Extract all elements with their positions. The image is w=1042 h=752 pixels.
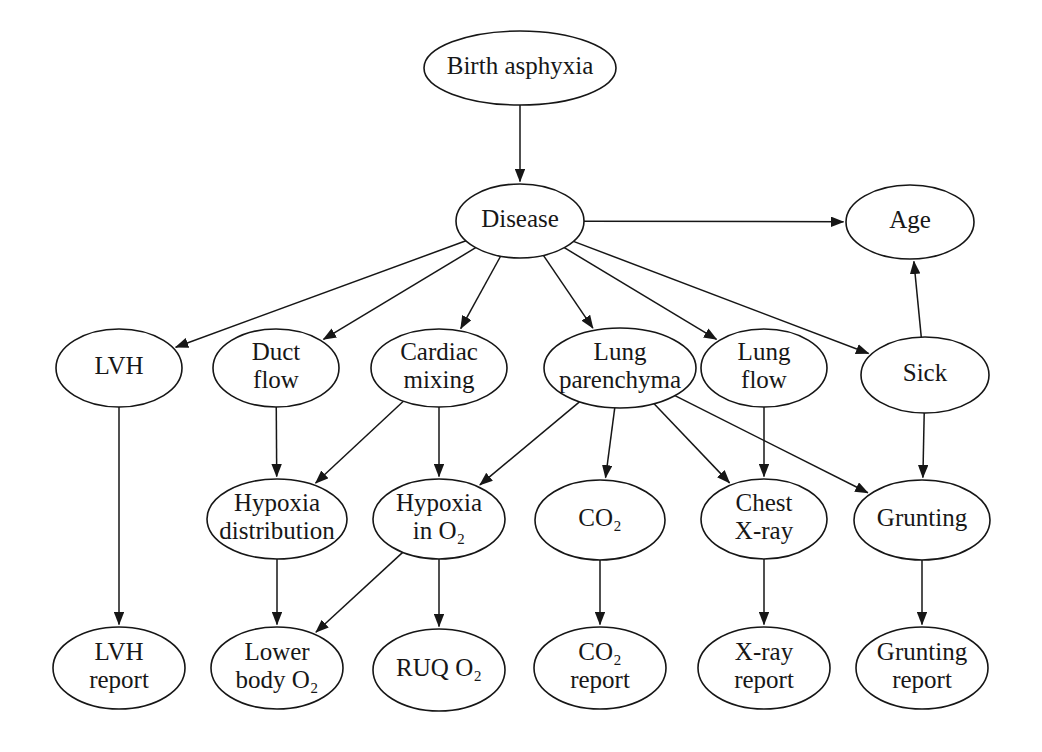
edge-disease-to-cardiac_mixing — [461, 256, 501, 328]
node-co2[interactable]: CO₂ — [535, 480, 665, 560]
edge-disease-to-age — [584, 221, 844, 222]
node-duct_flow[interactable]: Ductflow — [213, 329, 339, 407]
node-label-disease: Disease — [481, 205, 559, 232]
node-hypoxia_in_o2[interactable]: Hypoxiain O₂ — [373, 479, 505, 559]
node-hypoxia_distribution[interactable]: Hypoxiadistribution — [207, 479, 347, 559]
node-label-grunting: Grunting — [877, 504, 968, 531]
edge-lung_parenchyma-to-grunting — [675, 396, 868, 493]
node-label-xray_report: X-rayreport — [734, 638, 794, 693]
node-chest_xray[interactable]: ChestX-ray — [701, 479, 827, 559]
node-label-lung_flow: Lungflow — [738, 338, 791, 393]
node-lung_flow[interactable]: Lungflow — [701, 329, 827, 407]
node-label-ruq_o2: RUQ O₂ — [396, 654, 482, 681]
node-lvh[interactable]: LVH — [56, 329, 182, 407]
node-label-hypoxia_distribution: Hypoxiadistribution — [219, 489, 335, 544]
node-label-age: Age — [889, 206, 931, 233]
nodes-layer: Birth asphyxiaDiseaseAgeLVHDuctflowCardi… — [53, 31, 990, 711]
node-sick[interactable]: Sick — [861, 337, 989, 413]
node-label-cardiac_mixing: Cardiacmixing — [400, 338, 478, 393]
node-label-chest_xray: ChestX-ray — [735, 489, 794, 544]
edge-sick-to-grunting — [923, 413, 924, 478]
node-lung_parenchyma[interactable]: Lungparenchyma — [544, 328, 696, 408]
edge-disease-to-lung_parenchyma — [543, 255, 592, 328]
node-label-sick: Sick — [903, 359, 948, 386]
edge-cardiac_mixing-to-hypoxia_distribution — [316, 401, 404, 483]
node-label-duct_flow: Ductflow — [252, 338, 301, 393]
node-label-lvh: LVH — [94, 352, 143, 379]
node-label-birth_asphyxia: Birth asphyxia — [447, 52, 594, 79]
node-xray_report[interactable]: X-rayreport — [698, 627, 830, 709]
edge-disease-to-lung_flow — [564, 248, 716, 340]
node-cardiac_mixing[interactable]: Cardiacmixing — [371, 329, 507, 407]
diagram-canvas: Birth asphyxiaDiseaseAgeLVHDuctflowCardi… — [0, 0, 1042, 752]
edge-hypoxia_in_o2-to-lower_body_o2 — [316, 552, 403, 632]
node-lower_body_o2[interactable]: Lowerbody O₂ — [211, 627, 343, 709]
edge-disease-to-duct_flow — [323, 248, 475, 340]
node-label-co2: CO₂ — [578, 504, 621, 531]
node-birth_asphyxia[interactable]: Birth asphyxia — [424, 31, 616, 105]
edge-lung_parenchyma-to-co2 — [606, 408, 615, 478]
edge-sick-to-age — [914, 261, 921, 337]
node-label-co2_report: CO₂report — [570, 638, 630, 693]
node-lvh_report[interactable]: LVHreport — [53, 627, 185, 709]
node-disease[interactable]: Disease — [456, 184, 584, 258]
node-label-lvh_report: LVHreport — [89, 638, 149, 693]
edge-lung_parenchyma-to-chest_xray — [654, 404, 729, 483]
node-grunting[interactable]: Grunting — [854, 480, 990, 560]
node-grunting_report[interactable]: Gruntingreport — [856, 627, 988, 709]
node-ruq_o2[interactable]: RUQ O₂ — [373, 629, 505, 711]
bayesian-network-graph: Birth asphyxiaDiseaseAgeLVHDuctflowCardi… — [0, 0, 1042, 752]
edge-lung_parenchyma-to-hypoxia_in_o2 — [480, 402, 580, 485]
node-label-lower_body_o2: Lowerbody O₂ — [235, 638, 318, 693]
node-co2_report[interactable]: CO₂report — [534, 627, 666, 709]
node-age[interactable]: Age — [846, 185, 974, 259]
